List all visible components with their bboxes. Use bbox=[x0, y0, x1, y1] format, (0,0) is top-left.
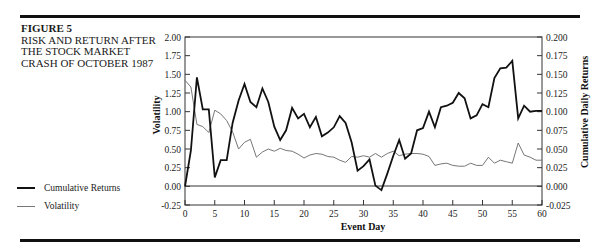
x-tick-label: 55 bbox=[508, 209, 518, 219]
x-tick-label: 60 bbox=[537, 209, 547, 219]
x-tick-label: 35 bbox=[389, 209, 399, 219]
plot-border bbox=[185, 37, 542, 205]
right-tick-label: 0.150 bbox=[546, 70, 568, 80]
x-tick-label: 50 bbox=[478, 209, 488, 219]
x-tick-label: 0 bbox=[183, 209, 188, 219]
left-tick-label: 1.50 bbox=[164, 70, 181, 80]
right-tick-label: 0.025 bbox=[546, 163, 568, 173]
right-axis-title: Cumulative Daily Returns bbox=[579, 56, 590, 168]
left-tick-label: 1.25 bbox=[164, 89, 181, 99]
plot-frame bbox=[185, 37, 542, 205]
x-tick-label: 5 bbox=[212, 209, 217, 219]
x-tick-label: 30 bbox=[359, 209, 369, 219]
left-tick-label: 2.00 bbox=[164, 33, 181, 43]
x-tick-label: 20 bbox=[299, 209, 309, 219]
right-tick-label: 0.125 bbox=[546, 89, 568, 99]
left-axis-title: Volatility bbox=[151, 95, 162, 134]
left-tick-label: 0.50 bbox=[164, 145, 181, 155]
right-tick-label: 0.000 bbox=[546, 182, 568, 192]
x-tick-label: 10 bbox=[240, 209, 250, 219]
right-tick-label: -0.025 bbox=[546, 201, 571, 211]
right-tick-label: 0.175 bbox=[546, 51, 568, 61]
x-axis-title: Event Day bbox=[341, 221, 386, 232]
right-tick-label: 0.100 bbox=[546, 107, 568, 117]
left-tick-label: -0.25 bbox=[161, 201, 181, 211]
x-tick-label: 45 bbox=[448, 209, 458, 219]
chart-area: 2.001.751.501.251.000.750.500.250.00-0.2… bbox=[0, 0, 595, 247]
x-tick-label: 15 bbox=[270, 209, 280, 219]
x-tick-label: 25 bbox=[329, 209, 339, 219]
left-tick-label: 0.00 bbox=[164, 182, 181, 192]
right-tick-label: 0.200 bbox=[546, 33, 568, 43]
right-tick-label: 0.075 bbox=[546, 126, 568, 136]
left-tick-label: 1.75 bbox=[164, 51, 181, 61]
left-tick-label: 0.75 bbox=[164, 126, 181, 136]
x-tick-label: 40 bbox=[418, 209, 428, 219]
cumulative-returns-line bbox=[185, 61, 542, 190]
right-tick-label: 0.050 bbox=[546, 145, 568, 155]
left-tick-label: 1.00 bbox=[164, 107, 181, 117]
left-tick-label: 0.25 bbox=[164, 163, 181, 173]
volatility-line bbox=[185, 80, 542, 166]
x-axis: 051015202530354045505560 bbox=[183, 200, 547, 219]
